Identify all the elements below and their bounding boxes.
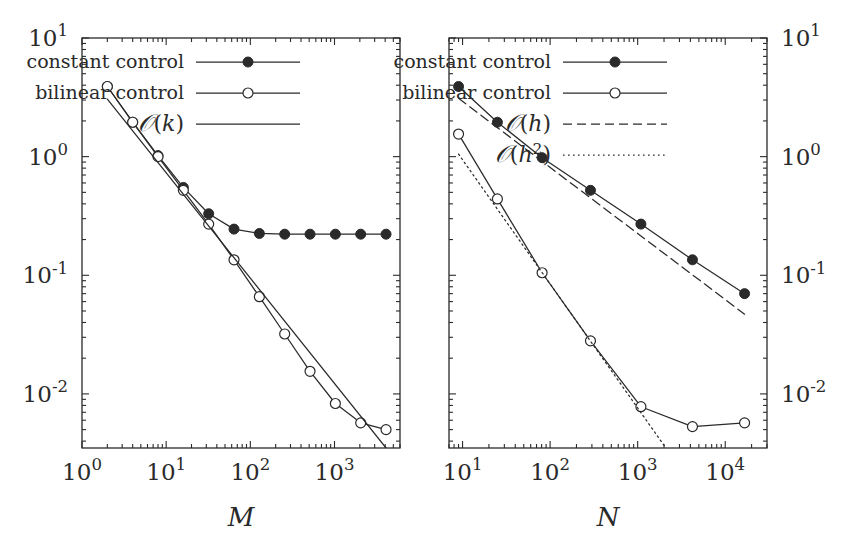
y-tick-label-text: 10-1 <box>781 259 826 289</box>
x-tick-label: 101 <box>443 455 483 485</box>
data-point-filled <box>636 219 646 229</box>
legend-marker-open <box>610 88 620 98</box>
y-tick-label: 10-1 <box>23 259 68 289</box>
x-axis-label: M <box>227 502 256 532</box>
x-tick-label-text: 101 <box>146 455 186 485</box>
x-tick-label: 102 <box>230 455 270 485</box>
data-point-filled <box>254 228 264 238</box>
x-axis-label: N <box>596 502 621 532</box>
y-tick-label-text: 10-2 <box>781 377 826 407</box>
y-tick-label: 10-2 <box>23 377 68 407</box>
legend-label: bilinear control <box>35 81 184 103</box>
y-tick-label: 100 <box>28 140 68 170</box>
y-tick-label-text: 10-2 <box>23 377 68 407</box>
legend-label-text: 𝒪(h2) <box>495 140 551 168</box>
legend-label: 𝒪(k) <box>138 109 184 137</box>
series-line-o-h-2- <box>459 154 666 448</box>
legend-marker-open <box>243 88 253 98</box>
y-tick-label-text: 10-1 <box>23 259 68 289</box>
convergence-figure: 10010110210310110010-110-2Mconstant cont… <box>0 0 843 557</box>
data-point-open <box>454 129 464 139</box>
y-tick-label-text: 100 <box>781 140 821 170</box>
data-point-open <box>356 418 366 428</box>
x-tick-label-text: 102 <box>530 455 570 485</box>
data-point-filled <box>330 229 340 239</box>
x-tick-label: 103 <box>315 455 355 485</box>
data-point-filled <box>204 209 214 219</box>
y-tick-label: 10-2 <box>781 377 826 407</box>
x-tick-label: 102 <box>530 455 570 485</box>
x-tick-label-text: 104 <box>705 455 745 485</box>
data-point-open <box>330 399 340 409</box>
data-point-open <box>204 219 214 229</box>
legend-label: 𝒪(h) <box>505 109 551 137</box>
data-point-open <box>687 422 697 432</box>
data-point-open <box>381 425 391 435</box>
data-point-filled <box>280 229 290 239</box>
data-point-filled <box>305 229 315 239</box>
panel-left-panel: 10010110210310110010-110-2Mconstant cont… <box>23 21 400 532</box>
x-tick-label-text: 101 <box>443 455 483 485</box>
x-tick-label-text: 103 <box>315 455 355 485</box>
y-tick-label: 101 <box>28 21 68 51</box>
legend-label: constant control <box>394 50 552 72</box>
legend-marker-filled <box>610 57 620 67</box>
x-tick-label: 104 <box>705 455 745 485</box>
data-point-open <box>305 366 315 376</box>
data-point-filled <box>740 289 750 299</box>
data-point-open <box>740 418 750 428</box>
x-tick-label: 103 <box>618 455 658 485</box>
y-tick-label-text: 100 <box>28 140 68 170</box>
series-line-o-k- <box>107 99 386 448</box>
figure-container: 10010110210310110010-110-2Mconstant cont… <box>0 0 843 557</box>
y-tick-label-text: 101 <box>781 21 821 51</box>
x-tick-label-text: 103 <box>618 455 658 485</box>
y-tick-label: 10-1 <box>781 259 826 289</box>
x-tick-label: 100 <box>62 455 102 485</box>
data-point-open <box>585 336 595 346</box>
x-tick-label-text: 100 <box>62 455 102 485</box>
y-tick-label: 100 <box>781 140 821 170</box>
data-point-open <box>280 329 290 339</box>
data-layer <box>454 82 750 448</box>
legend-label: constant control <box>27 50 185 72</box>
data-point-filled <box>229 224 239 234</box>
data-point-open <box>229 255 239 265</box>
legend-right: constant controlbilinear control𝒪(h)𝒪(h2… <box>394 50 668 168</box>
data-point-open <box>153 152 163 162</box>
legend-left: constant controlbilinear control𝒪(k) <box>27 50 301 137</box>
series-line-constant-control <box>459 87 745 294</box>
legend-label: 𝒪(h2) <box>495 140 551 168</box>
series-line-bilinear-control <box>107 87 386 430</box>
data-point-filled <box>381 229 391 239</box>
legend-label-text: 𝒪(k) <box>138 109 184 137</box>
x-tick-label: 101 <box>146 455 186 485</box>
data-point-open <box>636 402 646 412</box>
y-tick-label-text: 101 <box>28 21 68 51</box>
legend-marker-filled <box>243 57 253 67</box>
data-point-filled <box>356 229 366 239</box>
y-tick-label: 101 <box>781 21 821 51</box>
legend-label: bilinear control <box>402 81 551 103</box>
x-tick-label-text: 102 <box>230 455 270 485</box>
data-point-filled <box>585 185 595 195</box>
legend-label-text: 𝒪(h) <box>505 109 551 137</box>
data-point-open <box>492 194 502 204</box>
panel-right-panel: 10110210310410110010-110-2Nconstant cont… <box>394 21 827 532</box>
series-line-bilinear-control <box>459 134 745 427</box>
data-point-filled <box>687 255 697 265</box>
